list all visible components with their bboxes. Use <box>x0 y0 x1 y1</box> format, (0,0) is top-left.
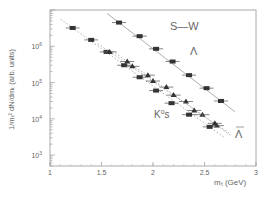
marker-square <box>88 38 94 42</box>
marker-triangle <box>163 84 169 89</box>
label-lambda: Λ <box>190 45 198 57</box>
marker-square <box>137 75 143 79</box>
svg-text:Λ: Λ <box>235 128 243 140</box>
y-tick-label: 103 <box>31 150 42 159</box>
marker-square <box>137 34 143 38</box>
label-k0s: Kos <box>154 108 170 120</box>
x-tick-label: 1.5 <box>97 169 107 176</box>
marker-square <box>218 99 224 103</box>
axes: 11.522.53103104105106 <box>31 10 258 176</box>
marker-triangle <box>124 59 130 64</box>
marker-triangle <box>145 72 151 77</box>
marker-square <box>170 60 176 64</box>
y-tick-label: 105 <box>31 78 42 87</box>
y-axis-label: 1/mₜ² dN/dmₜ (arb. units) <box>7 48 16 130</box>
x-tick-label: 1 <box>48 169 52 176</box>
label-lambdabar: Λ <box>235 127 244 140</box>
x-axis-label: mₜ (GeV) <box>214 178 247 187</box>
x-tick-label: 2 <box>151 169 155 176</box>
plot-frame <box>50 10 256 166</box>
marker-square <box>207 125 213 129</box>
marker-square <box>204 86 210 90</box>
marker-square <box>169 101 175 105</box>
marker-square <box>153 89 159 93</box>
marker-triangle <box>183 99 189 104</box>
marker-square <box>186 113 192 117</box>
marker-square <box>153 47 159 51</box>
y-tick-label: 104 <box>31 114 42 123</box>
marker-square <box>70 26 76 30</box>
marker-square <box>116 21 122 25</box>
marker-triangle <box>171 92 177 97</box>
chart-svg: 11.522.53103104105106 S—W Λ Kos Λ mₜ (Ge… <box>0 0 266 197</box>
data-series <box>61 13 235 137</box>
marker-triangle <box>199 112 205 117</box>
x-tick-label: 3 <box>254 169 258 176</box>
marker-square <box>186 73 192 77</box>
label-sw: S—W <box>170 20 199 32</box>
y-tick-label: 106 <box>31 41 42 50</box>
marker-triangle <box>150 78 156 83</box>
x-tick-label: 2.5 <box>200 169 210 176</box>
